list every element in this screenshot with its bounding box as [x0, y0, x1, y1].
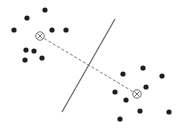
data-point [117, 116, 122, 121]
data-point [140, 65, 145, 70]
data-point [49, 27, 54, 32]
cluster-separation-diagram [0, 0, 182, 129]
data-point [112, 89, 117, 94]
cluster-a-centroid-icon [36, 32, 44, 40]
data-point [159, 73, 164, 78]
data-point [22, 57, 27, 62]
data-point [23, 47, 28, 52]
data-point [120, 71, 125, 76]
diagram-svg [0, 0, 182, 129]
data-point [11, 27, 16, 32]
data-point [123, 97, 128, 102]
data-point [24, 15, 29, 20]
data-point [63, 27, 68, 32]
cluster-b-centroid-icon [133, 90, 141, 98]
data-point [143, 84, 148, 89]
data-point [166, 109, 171, 114]
data-point [39, 55, 44, 60]
data-point [42, 7, 47, 12]
data-point [31, 48, 36, 53]
data-point [137, 108, 142, 113]
